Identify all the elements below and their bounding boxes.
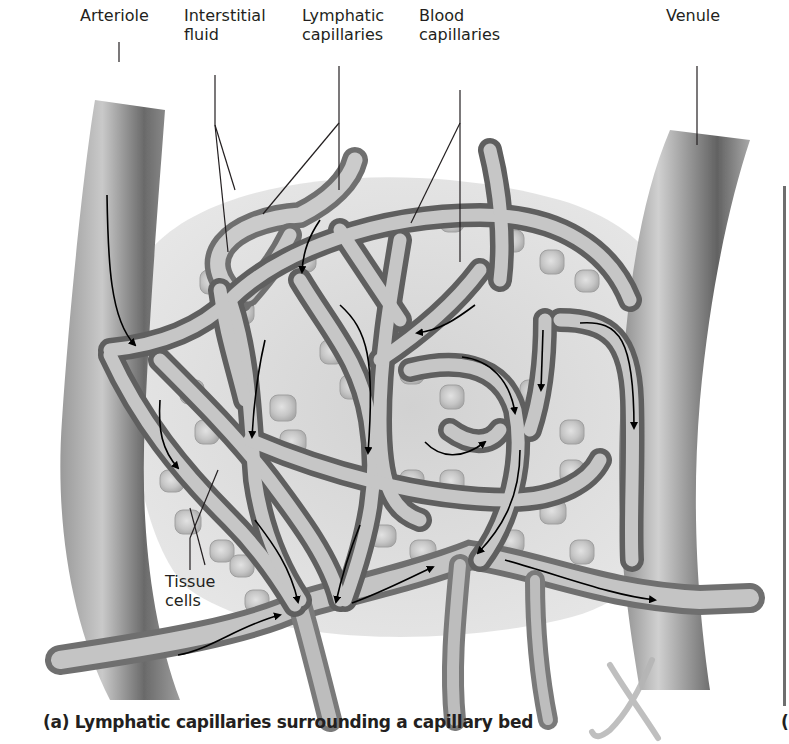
adjacent-panel-caption: ( <box>781 712 789 732</box>
label-venule: Venule <box>666 6 720 25</box>
label-lymphatic-capillaries: Lymphatic capillaries <box>302 6 384 44</box>
watermark-x-icon <box>592 660 658 738</box>
adjacent-panel-border <box>783 186 786 706</box>
figure-caption: (a) Lymphatic capillaries surrounding a … <box>43 712 533 732</box>
label-interstitial-fluid: Interstitial fluid <box>184 6 266 44</box>
label-tissue-cells: Tissue cells <box>165 572 215 610</box>
label-arteriole: Arteriole <box>80 6 149 25</box>
label-blood-capillaries: Blood capillaries <box>419 6 500 44</box>
